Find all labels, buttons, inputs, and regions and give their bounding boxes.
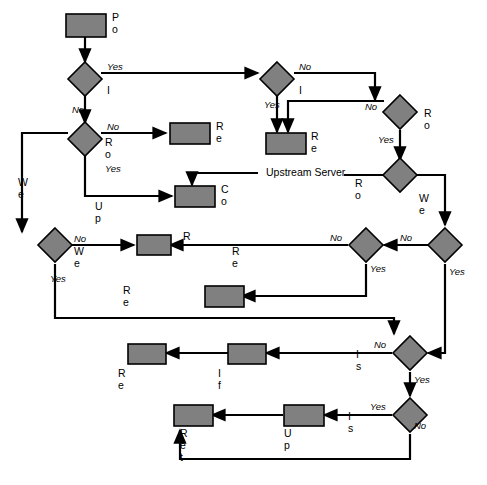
node-route-where xyxy=(383,158,417,192)
edge-label-wsa-left-yes: Yes xyxy=(50,273,66,284)
label-route-the-request-left: R o xyxy=(105,136,116,160)
edge-label-valid-yes: Yes xyxy=(264,99,280,110)
flowchart-canvas: P o I I R o R o R e R e R o C o W e W e … xyxy=(0,0,487,485)
node-web-server-accessible-right xyxy=(428,228,462,262)
node-return-object-in-cache-mid xyxy=(205,286,244,307)
label-update-cache: U p xyxy=(284,427,295,451)
label-return-object-on-web-server: R e t xyxy=(180,427,191,463)
label-is-object-valid: I xyxy=(299,84,302,96)
label-policy-allows: P o xyxy=(112,11,122,35)
node-route-the-request-left xyxy=(68,122,102,156)
edge-valid-no-to-route-right xyxy=(294,73,375,100)
node-is-object-on-web-server xyxy=(393,336,427,370)
edge-label-cache-yes: Yes xyxy=(107,61,123,72)
label-return-error-to-user-top: R e xyxy=(216,120,227,144)
label-return-error-to-user-mid: R xyxy=(183,230,191,242)
edge-label-route-left-no: No xyxy=(107,121,119,132)
edge-expired-yes-to-return-object-mid xyxy=(242,264,366,296)
node-is-object-valid xyxy=(260,62,294,96)
edge-label-valid-no: No xyxy=(299,61,311,72)
node-return-error-to-user-top xyxy=(170,123,210,144)
edge-label-wsa-left-no: No xyxy=(74,233,86,244)
node-update-cache xyxy=(284,405,324,426)
node-policy-allows xyxy=(66,14,106,37)
label-route-where: R o xyxy=(355,177,366,201)
label-is-object-on-web-server: I s xyxy=(356,348,362,372)
edge-label-wsa-right-yes: Yes xyxy=(449,266,465,277)
label-return-object-in-cache-top: R e xyxy=(311,130,322,154)
node-route-the-request-right xyxy=(383,95,417,129)
edge-label-cache-no: No xyxy=(72,104,84,115)
edge-label-onweb-yes: Yes xyxy=(414,374,430,385)
node-return-error-to-user-low xyxy=(128,344,166,364)
label-return-expired-objects: R e xyxy=(232,245,243,269)
edge-label-onweb-no: No xyxy=(374,339,386,350)
label-return-error-to-user-low: R e xyxy=(118,367,129,391)
node-is-object-in-cache xyxy=(68,62,102,96)
node-if-applicable-negative-cache xyxy=(228,344,266,364)
edge-wsa-right-yes-down xyxy=(428,264,445,353)
label-web-server-accessible-left: W e xyxy=(74,245,87,269)
edge-label-upstream-server-branch: U p xyxy=(95,200,106,224)
edge-label-route-right-no: No xyxy=(365,101,377,112)
node-return-object-in-cache-top xyxy=(266,133,306,154)
edge-label-wsa-right-no: No xyxy=(400,232,412,243)
label-connect-to-upstream: C o xyxy=(221,183,232,207)
flowchart-svg: P o I I R o R o R e R e R o C o W e W e … xyxy=(0,0,487,485)
node-web-server-accessible-left xyxy=(38,228,72,262)
node-return-object-on-web-server xyxy=(174,405,213,426)
node-connect-to-upstream xyxy=(175,186,215,207)
edge-label-expired-yes: Yes xyxy=(370,263,386,274)
label-is-object-in-cache: I xyxy=(107,84,110,96)
label-web-server-accessible-right: W e xyxy=(419,192,432,216)
edge-label-cachable-yes: Yes xyxy=(370,401,386,412)
label-is-object-cachable: I s xyxy=(348,410,354,434)
edge-cachable-no-to-return-object-web xyxy=(180,430,410,459)
edge-label-cachable-no: No xyxy=(414,420,426,431)
node-return-expired-objects xyxy=(349,228,383,262)
node-return-error-to-user-mid xyxy=(137,235,171,255)
label-web-server-accessible-mid: W e xyxy=(18,176,31,200)
label-return-object-in-cache-mid: R e xyxy=(123,284,134,308)
label-if-applicable-negative-cache: I f xyxy=(218,367,224,391)
edge-label-route-left-yes: Yes xyxy=(105,163,121,174)
edge-label-expired-no: No xyxy=(330,232,342,243)
edge-label-route-right-yes: Yes xyxy=(378,134,394,145)
edge-route-left-yes-to-connect-upstream xyxy=(85,152,172,196)
edge-label-upstream-server-line: Upstream Server xyxy=(266,166,346,178)
label-route-the-request-right: R o xyxy=(424,107,435,131)
